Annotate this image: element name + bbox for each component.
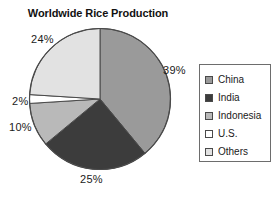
legend-swatch-india	[205, 94, 213, 102]
slice-label-india: 25%	[80, 173, 103, 185]
slice-label-others: 24%	[31, 33, 54, 45]
pie-svg	[28, 27, 172, 171]
legend-swatch-indonesia	[205, 112, 213, 120]
slice-label-china: 39%	[163, 64, 186, 76]
legend-swatch-china	[205, 76, 213, 84]
legend-label-china: China	[218, 75, 244, 85]
pie-slice-group	[30, 29, 171, 170]
legend-item-others: Others	[205, 143, 270, 160]
legend-swatch-us	[205, 130, 213, 138]
slice-label-indonesia: 10%	[9, 121, 32, 133]
slice-label-us: 2%	[12, 95, 29, 107]
chart-legend: China India Indonesia U.S. Others	[199, 64, 271, 162]
chart-title: Worldwide Rice Production	[0, 7, 196, 19]
legend-label-india: India	[218, 93, 240, 103]
legend-label-others: Others	[218, 147, 248, 157]
legend-label-us: U.S.	[218, 129, 237, 139]
pie-chart-figure: Worldwide Rice Production 39% 25% 10% 2%…	[0, 0, 279, 199]
legend-item-indonesia: Indonesia	[205, 107, 270, 124]
legend-item-china: China	[205, 71, 270, 88]
legend-swatch-others	[205, 148, 213, 156]
pie-plot-area	[28, 27, 172, 171]
legend-label-indonesia: Indonesia	[218, 111, 261, 121]
legend-item-india: India	[205, 89, 270, 106]
legend-item-us: U.S.	[205, 125, 270, 142]
